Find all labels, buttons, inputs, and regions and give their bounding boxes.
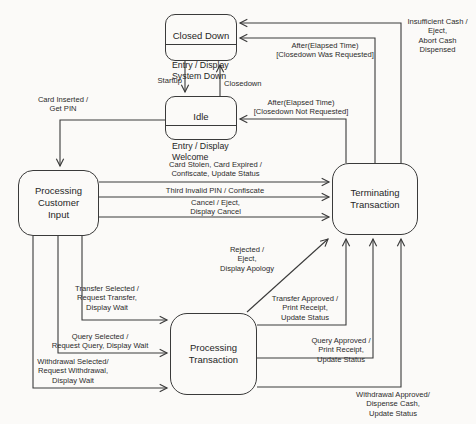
- state-terminating-transaction-title: Terminating Transaction: [350, 187, 399, 211]
- state-idle-title: Idle: [166, 109, 236, 126]
- transition-transfer-selected-label: Transfer Selected / Request Transfer, Di…: [60, 284, 154, 312]
- state-closed-down: Closed Down Entry / Display System Down: [165, 14, 237, 61]
- state-diagram: Closed Down Entry / Display System Down …: [0, 0, 476, 424]
- transition-card-inserted-label: Card Inserted / Get PIN: [28, 95, 98, 114]
- transition-withdrawal-selected-label: Withdrawal Selected/ Request Withdrawal,…: [26, 357, 120, 385]
- transition-startup-label: Startup: [148, 76, 182, 85]
- transition-after-was-requested-label: After(Elapsed Time) [Closedown Was Reque…: [262, 41, 388, 60]
- transition-insufficient-cash-label: Insufficient Cash / Eject, Abort Cash Di…: [399, 17, 476, 55]
- transition-closedown-label: Closedown: [224, 79, 268, 88]
- transition-after-not-requested-arrow: [240, 119, 346, 163]
- state-processing-transaction: Processing Transaction: [170, 313, 257, 395]
- transition-card-stolen-label: Card Stolen, Card Expired / Confiscate, …: [128, 160, 303, 179]
- state-idle: Idle Entry / Display Welcome: [165, 96, 237, 140]
- state-processing-customer-input-title: Processing Customer Input: [35, 185, 82, 221]
- transition-withdrawal-approved-label: Withdrawal Approved/ Dispense Cash, Upda…: [346, 390, 440, 418]
- transition-after-not-requested-label: After(Elapsed Time) [Closedown Not Reque…: [240, 98, 362, 117]
- state-terminating-transaction: Terminating Transaction: [332, 163, 418, 235]
- state-processing-transaction-title: Processing Transaction: [189, 342, 238, 366]
- transition-query-selected-label: Query Selected / Request Query, Display …: [24, 332, 176, 351]
- transition-query-approved-label: Query Approved / Print Receipt, Update S…: [299, 336, 383, 364]
- transition-transfer-approved-label: Transfer Approved / Print Receipt, Updat…: [264, 294, 346, 322]
- state-closed-down-title: Closed Down: [166, 27, 236, 45]
- transition-cancel-label: Cancel / Eject, Display Cancel: [168, 198, 263, 217]
- transition-rejected-label: Rejected / Eject, Display Apology: [202, 245, 292, 273]
- state-processing-customer-input: Processing Customer Input: [18, 170, 99, 236]
- transition-third-invalid-pin-label: Third Invalid PIN / Confiscate: [140, 186, 290, 195]
